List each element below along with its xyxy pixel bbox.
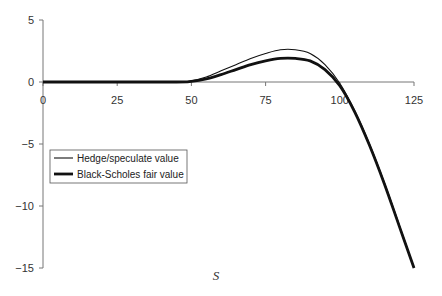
y-tick-label: 0 [28,76,34,88]
y-tick-label: −15 [15,262,34,274]
y-tick-label: 5 [28,14,34,26]
x-tick-label: 0 [40,94,46,106]
y-tick-label: −10 [15,200,34,212]
x-tick-label: 125 [405,94,423,106]
legend-label-black-scholes: Black-Scholes fair value [77,169,184,180]
x-axis-label: S [213,268,220,283]
x-tick-label: 25 [111,94,123,106]
legend-label-hedge: Hedge/speculate value [77,153,179,164]
x-tick-label: 50 [185,94,197,106]
chart: 50−5−10−150255075100125SHedge/speculate … [0,0,442,296]
x-tick-label: 75 [259,94,271,106]
y-tick-label: −5 [21,138,34,150]
